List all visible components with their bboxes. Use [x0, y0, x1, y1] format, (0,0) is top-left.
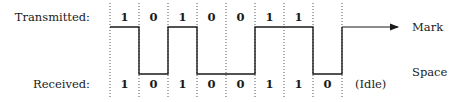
received-bit: 1 [120, 77, 128, 91]
transmitted-bit: 0 [149, 10, 157, 24]
received-bit: 0 [149, 77, 157, 91]
transmitted-bit: 0 [236, 10, 244, 24]
idle-label: (Idle) [355, 77, 386, 91]
received-bit: 1 [178, 77, 186, 91]
mark-label: Mark [412, 20, 444, 34]
received-label: Received: [33, 77, 90, 91]
transmitted-bit: 0 [207, 10, 215, 24]
transmitted-bit: 1 [294, 10, 302, 24]
received-bit: 1 [294, 77, 302, 91]
transmitted-bit: 1 [120, 10, 128, 24]
transmitted-bits: 1 0 1 0 0 1 1 [120, 10, 302, 24]
received-bit: 0 [207, 77, 215, 91]
bit-grid [110, 3, 342, 98]
transmitted-bit: 1 [178, 10, 186, 24]
serial-waveform-diagram: Transmitted: Received: 1 0 1 0 0 1 1 [0, 0, 461, 102]
transmitted-label: Transmitted: [15, 10, 90, 24]
received-bit: 0 [236, 77, 244, 91]
transmitted-bit: 1 [265, 10, 273, 24]
space-label: Space [412, 65, 448, 79]
received-bit: 0 [323, 77, 331, 91]
received-bit: 1 [265, 77, 273, 91]
